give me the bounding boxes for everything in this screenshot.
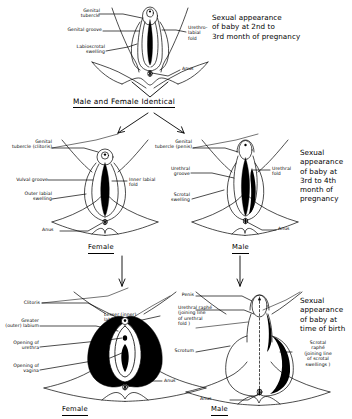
heading-identical: Male and Female Identical: [73, 97, 175, 108]
label-scrotum: Scrotum: [152, 348, 194, 353]
label-penis: Penis: [152, 292, 194, 297]
branch-arrow-male: [154, 113, 184, 133]
label-scrotal-raphe: Scrotal raphé (joining line of scrotal s…: [292, 340, 344, 367]
heading-female-birth: Female: [62, 405, 88, 416]
figure-indifferent: [92, 7, 208, 88]
label-genital-groove: Genital groove: [38, 27, 102, 32]
diagram-canvas: Genital tubercle Genital groove Labioscr…: [0, 0, 352, 419]
label-scrotal-swelling: Scrotal swelling: [146, 192, 190, 203]
figure-male-mid: [191, 134, 298, 235]
down-arrow-female: [119, 256, 125, 286]
converging-arrow: [132, 82, 168, 97]
label-anus-female-mid: Anus: [42, 227, 68, 232]
label-opening-of-urethra: Opening of urethra: [0, 340, 39, 351]
label-genital-tubercle-penis: Genital tubercle (penis): [138, 139, 192, 150]
label-opening-of-vagina: Opening of vagina: [0, 363, 39, 374]
label-vulval-groove: Vulval groove: [0, 177, 48, 182]
label-anus-female-birth: Anus: [164, 378, 190, 383]
label-clitoris: Clitoris: [0, 300, 40, 305]
label-anus-male-mid: Anus: [278, 226, 304, 231]
heading-male-birth: Male: [211, 405, 228, 416]
caption-stage-2: Sexual appearance of baby at 3rd to 4th …: [300, 148, 352, 204]
down-arrow-male: [237, 256, 243, 286]
label-lesser-inner-labium: Lesser (inner) labium: [104, 312, 156, 323]
caption-stage-3: Sexual appearance of baby at time of bir…: [300, 296, 352, 333]
label-outer-labial-swelling: Outer labial swelling: [0, 191, 52, 202]
label-greater-outer-labium: Greater (outer) labium: [0, 318, 39, 329]
heading-female-mid: Female: [88, 243, 114, 254]
label-genital-tubercle-clitoris: Genital tubercle (clitoris): [0, 139, 52, 150]
label-genital-tubercle: Genital tubercle: [44, 8, 100, 19]
label-inner-labial-fold: Inner labial fold: [129, 177, 173, 188]
label-anus-indifferent: Anus: [182, 66, 212, 71]
label-urethral-raphe: Urethral raphé (joining line of urethral…: [178, 305, 230, 327]
label-labioscrotal-swelling: Labioscrotal swelling: [40, 44, 105, 55]
heading-male-mid: Male: [232, 243, 249, 254]
label-anus-male-birth: Anus: [200, 396, 226, 401]
label-urethral-groove: Urethral groove: [146, 166, 190, 177]
branch-arrow-female: [118, 113, 148, 133]
caption-stage-1: Sexual appearance of baby at 2nd to 3rd …: [212, 13, 350, 41]
